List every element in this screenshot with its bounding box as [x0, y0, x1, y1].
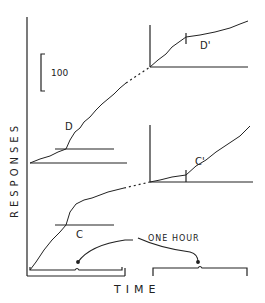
label-c-prime: C': [195, 156, 205, 167]
hour-bracket-left: [30, 267, 122, 270]
annotation-one-hour: ONE HOUR: [148, 234, 200, 243]
hour-bracket-right: [153, 267, 247, 277]
label-d-prime: D': [200, 40, 210, 51]
dotted-c: [124, 182, 150, 188]
scale-bar-label: 100: [51, 68, 68, 78]
curve-d: [30, 83, 126, 163]
label-c: C: [76, 229, 83, 240]
arrow-left: [78, 240, 133, 262]
dotted-d: [126, 67, 150, 83]
x-axis-label: TIME: [113, 283, 160, 296]
y-axis-label: RESPONSES: [9, 122, 20, 218]
curve-c-prime: [150, 126, 250, 182]
cumulative-record-figure: 100 D D' C C' ONE HOUR TIME RESPONSES: [0, 0, 265, 303]
curve-d-prime: [150, 21, 248, 67]
scale-bar: [41, 54, 45, 91]
label-d: D: [65, 121, 73, 132]
